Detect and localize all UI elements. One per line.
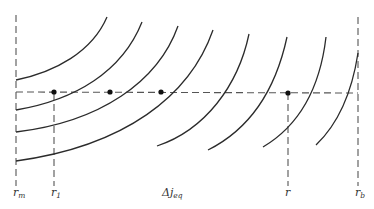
arc-8 bbox=[316, 53, 358, 145]
arc-6 bbox=[208, 37, 287, 150]
point-3 bbox=[158, 89, 163, 94]
label-r-b: rb bbox=[355, 186, 365, 200]
arc-1 bbox=[16, 17, 107, 80]
arc-4 bbox=[16, 30, 213, 161]
arc-2 bbox=[16, 22, 142, 110]
point-r1 bbox=[51, 89, 56, 94]
label-delta-j-eq: Δjeq bbox=[161, 186, 183, 200]
point-r bbox=[285, 90, 290, 95]
arc-7 bbox=[263, 37, 326, 147]
label-r-1: r1 bbox=[51, 186, 61, 200]
point-2 bbox=[107, 89, 112, 94]
horizontal-reference-line bbox=[16, 92, 358, 93]
label-r-m: rm bbox=[13, 186, 25, 200]
diagram-canvas: rm r1 Δjeq r rb bbox=[0, 0, 374, 209]
arc-5 bbox=[157, 34, 249, 146]
label-r: r bbox=[285, 186, 291, 199]
